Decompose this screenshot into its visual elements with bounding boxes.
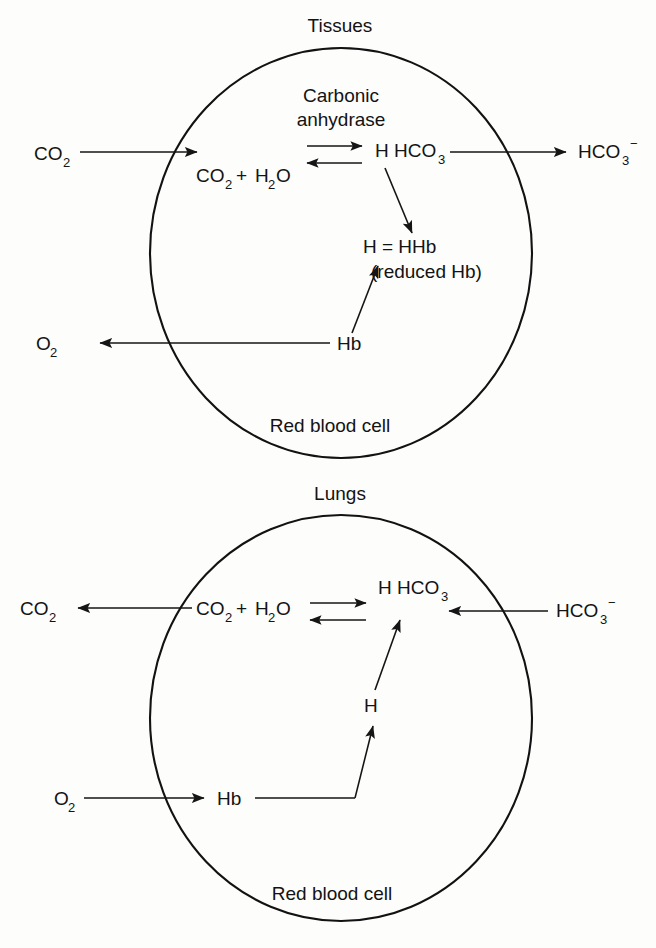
co2-subscript: 2 (49, 610, 56, 625)
plus-sign: + (236, 598, 247, 619)
equilibrium-arrows-lungs (310, 603, 366, 620)
rbc-gas-transport-diagram: Tissues Carbonic anhydrase CO 2 CO 2 + H… (0, 0, 656, 948)
co2-text: CO (20, 598, 49, 619)
panel-title-lungs: Lungs (314, 483, 366, 504)
hco3-subscript: 3 (441, 589, 448, 604)
plus-sign: + (236, 165, 247, 186)
external-o2-label-lungs: O 2 (54, 788, 75, 815)
h-text: H (375, 140, 389, 161)
co2-text: CO (196, 598, 225, 619)
external-hco3-label-tissues: HCO 3 − (578, 136, 638, 168)
figure-canvas: Tissues Carbonic anhydrase CO 2 CO 2 + H… (0, 0, 656, 948)
carbonic-anhydrase-label-line1: Carbonic (303, 85, 379, 106)
arrow-hb-to-hhb-tissues (352, 266, 378, 333)
h2o-o: O (276, 165, 291, 186)
co2-subscript: 2 (225, 177, 232, 192)
reduced-hb-note-tissues: (reduced Hb) (371, 261, 482, 282)
hb-label-lungs: Hb (217, 788, 241, 809)
hco3-subscript: 3 (622, 153, 629, 168)
arrow-hb-to-h-lungs (355, 726, 373, 798)
arrow-h-to-hhb-tissues (385, 168, 412, 233)
h2o-subscript: 2 (268, 177, 275, 192)
o2-text: O (54, 788, 69, 809)
external-hco3-label-lungs: HCO 3 − (556, 595, 616, 627)
h2o-o: O (276, 598, 291, 619)
o2-text: O (36, 333, 51, 354)
hb-label-tissues: Hb (337, 333, 361, 354)
equilibrium-arrows-tissues (307, 146, 362, 163)
hco3-subscript: 3 (438, 152, 445, 167)
hhb-label-tissues: H = HHb (363, 236, 436, 257)
panel-tissues: Tissues Carbonic anhydrase CO 2 CO 2 + H… (34, 15, 638, 458)
hco3-text: HCO (397, 577, 439, 598)
reactants-co2-h2o-tissues: CO 2 + H 2 O (196, 165, 291, 192)
reactants-co2-h2o-lungs: CO 2 + H 2 O (196, 598, 291, 625)
co2-text: CO (34, 143, 63, 164)
h-text: H (378, 577, 392, 598)
panel-title-tissues: Tissues (308, 15, 373, 36)
hco3-superscript-minus: − (608, 595, 616, 610)
h2o-h: H (255, 165, 269, 186)
hco3-text: HCO (556, 600, 598, 621)
red-blood-cell-label-lungs: Red blood cell (272, 883, 392, 904)
hco3-superscript-minus: − (630, 136, 638, 151)
co2-subscript: 2 (63, 155, 70, 170)
hco3-text: HCO (578, 141, 620, 162)
hco3-text: HCO (394, 140, 436, 161)
carbonic-anhydrase-label-line2: anhydrase (297, 109, 386, 130)
external-co2-label-lungs: CO 2 (20, 598, 56, 625)
h2o-subscript: 2 (268, 610, 275, 625)
product-h-hco3-lungs: H HCO 3 (378, 577, 448, 604)
h-ion-label-lungs: H (364, 695, 378, 716)
co2-text: CO (196, 165, 225, 186)
external-co2-label-tissues: CO 2 (34, 143, 70, 170)
external-o2-label-tissues: O 2 (36, 333, 57, 360)
co2-subscript: 2 (225, 610, 232, 625)
h2o-h: H (255, 598, 269, 619)
hco3-subscript: 3 (600, 612, 607, 627)
red-blood-cell-outline-lungs (150, 515, 532, 921)
red-blood-cell-label-tissues: Red blood cell (270, 415, 390, 436)
o2-subscript: 2 (50, 345, 57, 360)
product-h-hco3-tissues: H HCO 3 (375, 140, 445, 167)
o2-subscript: 2 (68, 800, 75, 815)
panel-lungs: Lungs CO 2 CO 2 + H 2 O (20, 483, 616, 921)
arrow-h-to-hco3-lungs (375, 620, 400, 690)
